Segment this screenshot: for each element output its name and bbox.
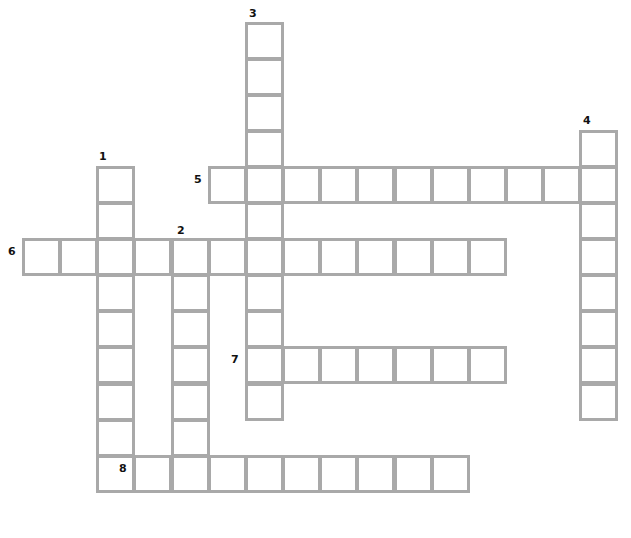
crossword-cell[interactable]: [579, 166, 618, 204]
clue-number-7: 7: [231, 354, 239, 365]
crossword-cell[interactable]: [282, 166, 321, 204]
crossword-cell[interactable]: [505, 166, 544, 204]
crossword-cell[interactable]: [579, 310, 618, 348]
crossword-cell[interactable]: [245, 310, 284, 348]
crossword-cell[interactable]: [245, 58, 284, 96]
crossword-cell[interactable]: [468, 166, 507, 204]
crossword-cell[interactable]: [96, 166, 135, 204]
crossword-cell[interactable]: [319, 455, 358, 493]
clue-number-1: 1: [99, 151, 107, 162]
crossword-cell[interactable]: [394, 238, 433, 276]
crossword-cell[interactable]: [431, 455, 470, 493]
crossword-cell[interactable]: [245, 383, 284, 421]
crossword-cell[interactable]: [579, 274, 618, 312]
crossword-cell[interactable]: [171, 383, 210, 421]
crossword-cell[interactable]: [133, 455, 172, 493]
crossword-cell[interactable]: [245, 94, 284, 132]
crossword-cell[interactable]: [579, 202, 618, 240]
crossword-cell[interactable]: [208, 455, 247, 493]
crossword-cell[interactable]: [208, 238, 247, 276]
crossword-cell[interactable]: [245, 166, 284, 204]
crossword-cell[interactable]: [96, 455, 135, 493]
crossword-cell[interactable]: [282, 455, 321, 493]
clue-number-8: 8: [119, 463, 127, 474]
crossword-cell[interactable]: [171, 274, 210, 312]
crossword-cell[interactable]: [542, 166, 581, 204]
crossword-cell[interactable]: [245, 274, 284, 312]
clue-number-6: 6: [8, 246, 16, 257]
crossword-cell[interactable]: [22, 238, 61, 276]
crossword-cell[interactable]: [319, 346, 358, 384]
crossword-cell[interactable]: [579, 130, 618, 168]
crossword-cell[interactable]: [171, 310, 210, 348]
crossword-cell[interactable]: [394, 455, 433, 493]
crossword-cell[interactable]: [245, 130, 284, 168]
crossword-cell[interactable]: [282, 238, 321, 276]
crossword-cell[interactable]: [133, 238, 172, 276]
clue-number-2: 2: [177, 225, 185, 236]
crossword-cell[interactable]: [171, 346, 210, 384]
crossword-cell[interactable]: [282, 346, 321, 384]
crossword-cell[interactable]: [59, 238, 98, 276]
crossword-cell[interactable]: [468, 238, 507, 276]
crossword-cell[interactable]: [208, 166, 247, 204]
crossword-cell[interactable]: [96, 238, 135, 276]
crossword-cell[interactable]: [96, 202, 135, 240]
crossword-cell[interactable]: [96, 419, 135, 457]
crossword-cell[interactable]: [319, 238, 358, 276]
crossword-cell[interactable]: [431, 238, 470, 276]
crossword-cell[interactable]: [356, 166, 395, 204]
crossword-cell[interactable]: [579, 383, 618, 421]
crossword-cell[interactable]: [356, 455, 395, 493]
clue-number-3: 3: [249, 8, 257, 19]
crossword-cell[interactable]: [96, 310, 135, 348]
clue-number-4: 4: [583, 115, 591, 126]
crossword-cell[interactable]: [171, 419, 210, 457]
crossword-cell[interactable]: [468, 346, 507, 384]
crossword-cell[interactable]: [579, 346, 618, 384]
crossword-cell[interactable]: [171, 455, 210, 493]
crossword-cell[interactable]: [96, 383, 135, 421]
crossword-board: 12345678: [0, 0, 631, 538]
crossword-cell[interactable]: [431, 346, 470, 384]
crossword-cell[interactable]: [431, 166, 470, 204]
crossword-cell[interactable]: [245, 202, 284, 240]
crossword-cell[interactable]: [96, 274, 135, 312]
crossword-cell[interactable]: [579, 238, 618, 276]
crossword-cell[interactable]: [245, 238, 284, 276]
crossword-cell[interactable]: [394, 346, 433, 384]
crossword-cell[interactable]: [245, 455, 284, 493]
crossword-cell[interactable]: [356, 346, 395, 384]
crossword-cell[interactable]: [171, 238, 210, 276]
crossword-cell[interactable]: [319, 166, 358, 204]
crossword-cell[interactable]: [245, 22, 284, 60]
crossword-cell[interactable]: [96, 346, 135, 384]
clue-number-5: 5: [194, 174, 202, 185]
crossword-cell[interactable]: [245, 346, 284, 384]
crossword-cell[interactable]: [394, 166, 433, 204]
crossword-cell[interactable]: [356, 238, 395, 276]
